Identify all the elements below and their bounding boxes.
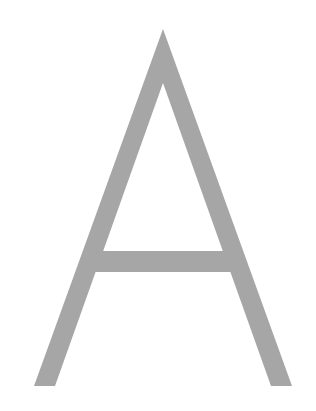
letter-a-glyph (0, 0, 316, 411)
letter-a-shape (34, 29, 292, 386)
letter-a-canvas: A (0, 0, 316, 411)
